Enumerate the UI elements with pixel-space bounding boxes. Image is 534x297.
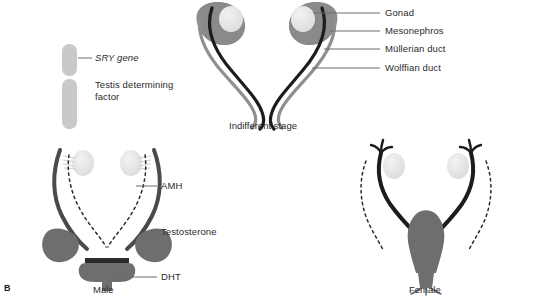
fimbriae-right bbox=[460, 140, 481, 153]
caption-indifferent-stage: Indifferent stage bbox=[229, 120, 297, 131]
caption-male: Male bbox=[93, 284, 114, 295]
gonad-right bbox=[291, 6, 315, 32]
chromosome-long-arm bbox=[62, 79, 77, 129]
label-mullerian-duct: Müllerian duct bbox=[385, 43, 446, 55]
male-diagram bbox=[42, 150, 172, 291]
testis-left bbox=[72, 150, 94, 176]
ovary-right bbox=[447, 153, 469, 179]
label-testosterone: Testosterone bbox=[161, 226, 217, 238]
label-dht: DHT bbox=[161, 271, 181, 283]
legend-tdf-label-line1: Testis determining bbox=[95, 79, 173, 91]
sexual-differentiation-figure: SRY gene Testis determining factor Gonad… bbox=[0, 0, 534, 297]
indifferent-stage-diagram bbox=[197, 2, 380, 129]
gonad-left bbox=[219, 6, 243, 32]
panel-letter: B bbox=[4, 283, 11, 293]
caption-female: Female bbox=[409, 284, 441, 295]
ovary-left bbox=[383, 153, 405, 179]
chromosome-short-arm bbox=[62, 44, 77, 76]
testis-right bbox=[120, 150, 142, 176]
chromosome-legend-glyph bbox=[62, 44, 92, 129]
legend-sry-gene-label: SRY gene bbox=[95, 52, 139, 64]
fimbriae-left bbox=[371, 140, 392, 153]
uterus bbox=[408, 210, 445, 273]
label-amh: AMH bbox=[161, 180, 182, 192]
legend-tdf-label-line2: factor bbox=[95, 91, 119, 103]
label-mesonephros: Mesonephros bbox=[385, 25, 444, 37]
female-diagram bbox=[361, 140, 491, 295]
label-wolffian-duct: Wolffian duct bbox=[385, 62, 441, 74]
label-gonad: Gonad bbox=[385, 7, 414, 19]
ejaculatory-duct-junction bbox=[85, 258, 129, 263]
diagram-canvas bbox=[0, 0, 534, 297]
